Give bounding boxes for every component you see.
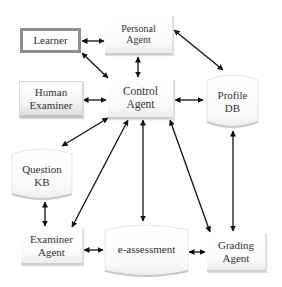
profile-db-label: Profile DB bbox=[207, 89, 258, 114]
edge-learner-control bbox=[82, 53, 108, 78]
control-agent-label: Control Agent bbox=[123, 85, 158, 111]
human-examiner-label: Human Examiner bbox=[30, 86, 73, 111]
learner-node: Learner bbox=[20, 28, 81, 53]
edge-control-question bbox=[62, 118, 108, 146]
grading-agent-node: Grading Agent bbox=[207, 233, 266, 272]
edge-control-grading bbox=[170, 120, 210, 232]
e-assessment-label: e-assessment bbox=[105, 243, 188, 256]
grading-agent-label: Grading Agent bbox=[218, 239, 254, 264]
edge-control-examiner bbox=[72, 120, 128, 227]
examiner-agent-label: Examiner Agent bbox=[30, 233, 73, 258]
personal-agent-node: Personal Agent bbox=[105, 15, 173, 55]
examiner-agent-node: Examiner Agent bbox=[21, 228, 83, 265]
question-kb-label: Question KB bbox=[12, 163, 72, 188]
edge-personal-profile bbox=[174, 30, 223, 70]
personal-agent-label: Personal Agent bbox=[121, 23, 155, 46]
learner-label: Learner bbox=[33, 34, 67, 47]
agent-architecture-diagram: Personal Agent Learner Human Examiner Co… bbox=[0, 0, 282, 287]
human-examiner-node: Human Examiner bbox=[19, 81, 83, 118]
control-agent-node: Control Agent bbox=[108, 79, 174, 119]
